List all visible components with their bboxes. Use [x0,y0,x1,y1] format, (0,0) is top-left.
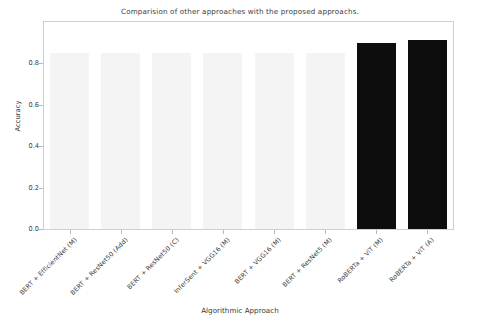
x-tick-mark-6 [376,230,377,234]
y-tick-mark-1 [39,188,43,189]
y-tick-mark-4 [39,63,43,64]
x-tick-mark-2 [172,230,173,234]
bar-6 [357,43,396,229]
y-tick-mark-3 [39,105,43,106]
bar-7 [408,40,447,229]
x-tick-mark-5 [325,230,326,234]
x-tick-label-7: RoBERTa + ViT (A) [388,236,436,284]
x-axis-label: Algorithmic Approach [0,306,480,315]
x-tick-mark-1 [121,230,122,234]
y-tick-mark-2 [39,146,43,147]
bar-2 [152,53,191,229]
x-tick-mark-0 [70,230,71,234]
x-tick-label-3: InferSent + VGG16 (M) [172,236,231,295]
y-tick-label-0: 0.0 [29,225,40,233]
y-tick-label-1: 0.2 [29,184,40,192]
x-tick-label-2: BERT + ResNet50 (C) [125,236,180,291]
bars-container [44,22,453,229]
bar-3 [203,53,242,229]
bar-0 [50,53,89,229]
bar-5 [306,53,345,229]
x-tick-label-6: RoBERTa + ViT (M) [336,236,385,285]
y-tick-label-4: 0.8 [29,59,40,67]
chart-title: Comparision of other approaches with the… [0,7,480,16]
chart-screenshot: Comparision of other approaches with the… [0,0,480,327]
y-tick-label-2: 0.4 [29,142,40,150]
x-tick-label-1: BERT + ResNet50 (Add) [69,236,130,297]
y-axis-label: Accuracy [14,86,22,146]
x-tick-label-5: BERT + ResNet5 (M) [281,236,334,289]
x-tick-mark-4 [274,230,275,234]
x-tick-mark-7 [427,230,428,234]
bar-4 [255,53,294,229]
x-tick-label-4: BERT + VGG16 (M) [233,236,283,286]
y-tick-label-3: 0.6 [29,101,40,109]
y-tick-mark-0 [39,229,43,230]
bar-1 [101,53,140,229]
x-tick-mark-3 [223,230,224,234]
